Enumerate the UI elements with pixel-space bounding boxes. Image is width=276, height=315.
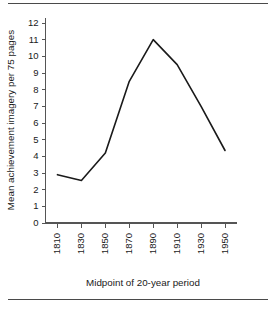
y-tick-label: 11 bbox=[29, 34, 39, 45]
line-chart: 0123456789101112 18101830185018701890191… bbox=[0, 10, 276, 295]
y-tick-label: 9 bbox=[33, 67, 38, 78]
y-axis-title: Mean achievement imagery per 75 pages bbox=[5, 30, 16, 210]
figure-container: 0123456789101112 18101830185018701890191… bbox=[0, 0, 276, 315]
x-tick-label: 1810 bbox=[51, 233, 62, 254]
y-tick-label: 12 bbox=[28, 17, 39, 28]
x-tick-label: 1910 bbox=[171, 233, 182, 254]
y-tick-label: 0 bbox=[33, 217, 38, 228]
y-tick-label: 8 bbox=[33, 84, 38, 95]
x-tick-label: 1890 bbox=[147, 233, 158, 254]
bottom-horizontal-rule bbox=[8, 299, 268, 300]
x-axis-title: Midpoint of 20-year period bbox=[86, 277, 200, 288]
x-tick-label: 1950 bbox=[219, 233, 230, 254]
x-tick-label: 1870 bbox=[123, 233, 134, 254]
x-tick-label: 1850 bbox=[99, 233, 110, 254]
y-tick-label: 5 bbox=[33, 134, 38, 145]
y-tick-label: 2 bbox=[33, 184, 38, 195]
y-tick-label: 10 bbox=[28, 50, 39, 61]
x-tick-label: 1930 bbox=[195, 233, 206, 254]
x-tick-label: 1830 bbox=[75, 233, 86, 254]
y-tick-group: 0123456789101112 bbox=[28, 17, 46, 228]
x-tick-group: 18101830185018701890191019301950 bbox=[51, 223, 230, 254]
y-tick-label: 4 bbox=[33, 150, 38, 161]
top-horizontal-rule bbox=[8, 3, 268, 4]
y-tick-label: 6 bbox=[33, 117, 38, 128]
data-series-line bbox=[57, 40, 225, 181]
y-tick-label: 1 bbox=[33, 200, 38, 211]
y-tick-label: 3 bbox=[33, 167, 38, 178]
y-tick-label: 7 bbox=[33, 100, 38, 111]
